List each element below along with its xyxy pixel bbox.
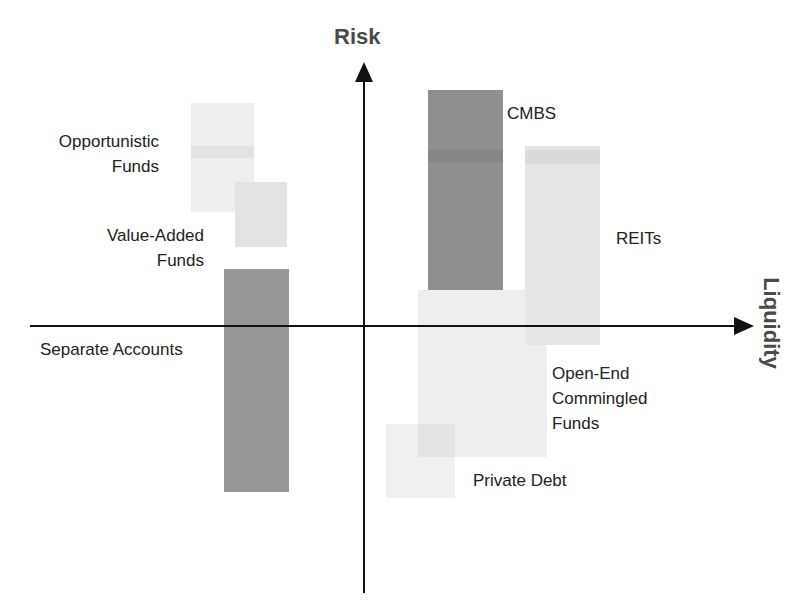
label-line: Funds bbox=[20, 156, 159, 177]
liquidity-axis-arrow-icon bbox=[734, 317, 754, 335]
separate-accounts-label: Separate Accounts bbox=[40, 339, 183, 360]
label-line: Value-Added bbox=[40, 225, 204, 246]
reits-label: REITs bbox=[616, 228, 661, 249]
cmbs-label: CMBS bbox=[507, 103, 556, 124]
liquidity-axis-title: Liquidity bbox=[758, 268, 784, 378]
label-line: Commingled bbox=[552, 388, 647, 409]
value-added-funds-label: Value-Added Funds bbox=[40, 225, 204, 271]
axes bbox=[0, 0, 802, 613]
open-end-commingled-funds-label: Open-End Commingled Funds bbox=[552, 363, 647, 434]
label-line: Funds bbox=[552, 413, 647, 434]
label-line: Funds bbox=[40, 250, 204, 271]
opportunistic-funds-label: Opportunistic Funds bbox=[20, 131, 159, 177]
private-debt-label: Private Debt bbox=[473, 470, 567, 491]
risk-axis-title: Risk bbox=[334, 24, 380, 50]
risk-axis-arrow-icon bbox=[355, 62, 373, 82]
label-line: Opportunistic bbox=[20, 131, 159, 152]
label-line: Open-End bbox=[552, 363, 647, 384]
